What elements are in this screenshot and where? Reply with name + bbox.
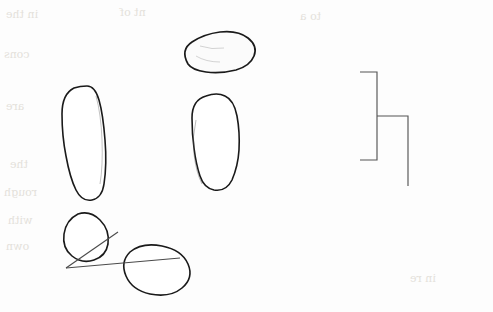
integral-protein-left [62, 86, 106, 200]
integral-protein-center [192, 94, 239, 190]
figure-canvas: in the nt of cons are the rough with own… [0, 0, 493, 312]
membrane-drawing [0, 0, 493, 312]
protein-lower-center [124, 245, 190, 295]
bilayer-bracket [360, 72, 408, 186]
peripheral-protein-top [185, 32, 255, 73]
